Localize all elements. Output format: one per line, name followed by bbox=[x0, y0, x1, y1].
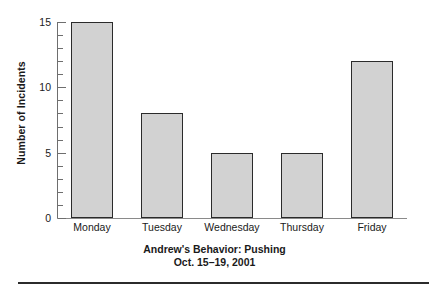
chart-title: Andrew's Behavior: Pushing bbox=[0, 243, 429, 256]
chart-subtitle: Oct. 15–19, 2001 bbox=[0, 256, 429, 269]
y-tick-label: 10 bbox=[21, 82, 51, 93]
bottom-horizontal-rule bbox=[18, 282, 429, 284]
bar bbox=[71, 22, 113, 218]
bars-layer bbox=[57, 22, 407, 218]
y-axis-tick-labels: 051015 bbox=[21, 22, 51, 218]
bar bbox=[211, 153, 253, 218]
y-tick-label: 5 bbox=[21, 148, 51, 159]
x-tick-label: Thursday bbox=[267, 222, 337, 233]
x-tick-label: Tuesday bbox=[127, 222, 197, 233]
bar bbox=[141, 113, 183, 218]
bar bbox=[281, 153, 323, 218]
x-tick-label: Wednesday bbox=[197, 222, 267, 233]
x-axis-line bbox=[57, 218, 407, 219]
bar bbox=[351, 61, 393, 218]
y-tick-label: 15 bbox=[21, 17, 51, 28]
y-tick-label: 0 bbox=[21, 213, 51, 224]
plot-area: 051015 bbox=[57, 22, 407, 218]
x-axis-tick-labels: MondayTuesdayWednesdayThursdayFriday bbox=[57, 222, 407, 238]
x-tick-label: Monday bbox=[57, 222, 127, 233]
y-tick-major bbox=[58, 218, 66, 219]
x-tick-label: Friday bbox=[337, 222, 407, 233]
bar-chart-figure: Number of Incidents 051015 MondayTuesday… bbox=[0, 0, 429, 291]
chart-caption: Andrew's Behavior: Pushing Oct. 15–19, 2… bbox=[0, 243, 429, 269]
